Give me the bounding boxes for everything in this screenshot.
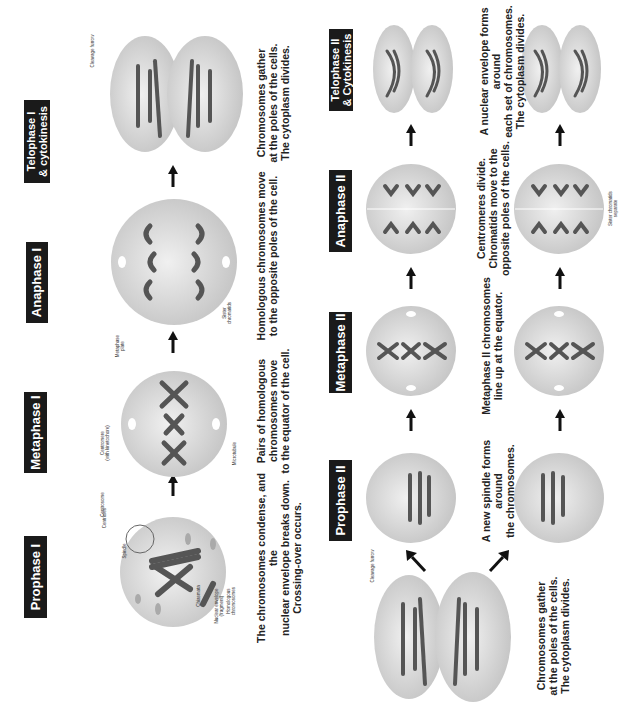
description-prophase-2: A new spindle forms around the chromosom… <box>480 421 516 561</box>
metaphase-2-cell-icon <box>365 303 457 398</box>
annotation-homologous-chromosomes: Homologous chromosomes <box>226 581 236 621</box>
stage-label-telophase-1: Telophase I & cytokinesis <box>24 100 50 183</box>
arrow-diagonal-up-icon <box>405 549 427 573</box>
stage-label-anaphase-1: Anaphase I <box>26 242 48 323</box>
meiosis-2-start-cell-icon <box>373 564 513 709</box>
annotation-sister-chromatids-separate: Sister chromatids separate <box>608 186 618 231</box>
meiosis-diagram: Prophase I Metaphase I Anaphase I Teloph… <box>0 0 643 721</box>
description-metaphase-1: Pairs of homologous chromosomes move to … <box>255 336 291 486</box>
cell-anaphase-2-top <box>365 161 457 256</box>
arrow-right-icon <box>406 124 416 146</box>
stage-label-telophase-2: Telophase II & Cytokinesis <box>329 29 353 111</box>
arrow-right-icon <box>555 124 565 146</box>
description-anaphase-2: Centromeres divide. Chromatids move to t… <box>475 136 511 281</box>
annotation-cleavage-furrow-2: Cleavage furrow <box>370 546 375 586</box>
cell-prophase-2-bottom <box>513 450 605 545</box>
anaphase-2-cell-icon <box>365 161 457 256</box>
cell-anaphase-2-bottom <box>513 161 605 256</box>
stage-label-metaphase-1: Metaphase I <box>24 392 47 473</box>
description-telophase-1: Chromosomes gather at the poles of the c… <box>255 33 291 173</box>
anaphase-2-cell-icon <box>513 161 605 256</box>
cell-prophase-2-top <box>365 450 457 545</box>
description-prophase-1: The chromosomes condense, and the nuclea… <box>255 473 303 643</box>
annotation-chiasmata: Chiasmata <box>196 581 201 611</box>
cell-meiosis-2-start <box>373 564 513 709</box>
telophase-2-cell-icon <box>372 21 454 116</box>
annotation-metaphase-plate: Metaphase plate <box>115 331 125 361</box>
arrow-right-icon <box>406 409 416 431</box>
cell-metaphase-1 <box>120 370 228 478</box>
prophase-1-cell-icon <box>118 514 228 629</box>
description-telophase-2: A nuclear envelope forms around each set… <box>478 0 526 149</box>
arrow-right-icon <box>406 267 416 289</box>
arrow-right-icon <box>168 165 178 187</box>
annotation-centrosome: Centrosome <box>100 487 105 522</box>
cell-metaphase-2-top <box>365 303 457 398</box>
annotation-nuclear-envelope: Nuclear envelope (fragment) <box>214 586 224 626</box>
cell-telophase-2-top <box>372 21 454 116</box>
cell-telophase-2-bottom <box>520 21 602 116</box>
annotation-spindle: Spindle <box>122 536 127 566</box>
arrow-right-icon <box>555 409 565 431</box>
arrow-right-icon <box>555 267 565 289</box>
arrow-right-icon <box>168 331 178 353</box>
annotation-centromere: Centromere (with kinetochore) <box>100 423 110 463</box>
annotation-microtubule: Microtubule <box>232 436 237 471</box>
cell-anaphase-1 <box>110 198 238 326</box>
stage-label-anaphase-2: Anaphase II <box>329 170 352 252</box>
stage-label-metaphase-2: Metaphase II <box>329 312 352 393</box>
annotation-cleavage-furrow: Cleavage furrow <box>90 31 95 71</box>
description-meiosis-2-start: Chromosomes gather at the poles of the c… <box>535 561 571 711</box>
telophase-1-cell-icon <box>110 31 245 156</box>
telophase-2-cell-icon <box>520 21 602 116</box>
description-metaphase-2: Metaphase II chromosomes line up at the … <box>480 276 504 416</box>
metaphase-2-cell-icon <box>513 303 605 398</box>
annotation-sister-chromatids: Sister chromatids <box>222 298 232 328</box>
stage-label-prophase-1: Prophase I <box>24 536 47 618</box>
prophase-2-cell-icon <box>365 450 457 545</box>
anaphase-1-cell-icon <box>110 198 238 326</box>
cell-prophase-1 <box>118 514 228 629</box>
cell-metaphase-2-bottom <box>513 303 605 398</box>
stage-label-prophase-2: Prophase II <box>329 460 352 541</box>
cell-telophase-1 <box>110 31 245 156</box>
prophase-2-cell-icon <box>513 450 605 545</box>
description-anaphase-1: Homologous chromosomes move to the oppos… <box>255 171 279 341</box>
metaphase-1-cell-icon <box>120 370 228 478</box>
